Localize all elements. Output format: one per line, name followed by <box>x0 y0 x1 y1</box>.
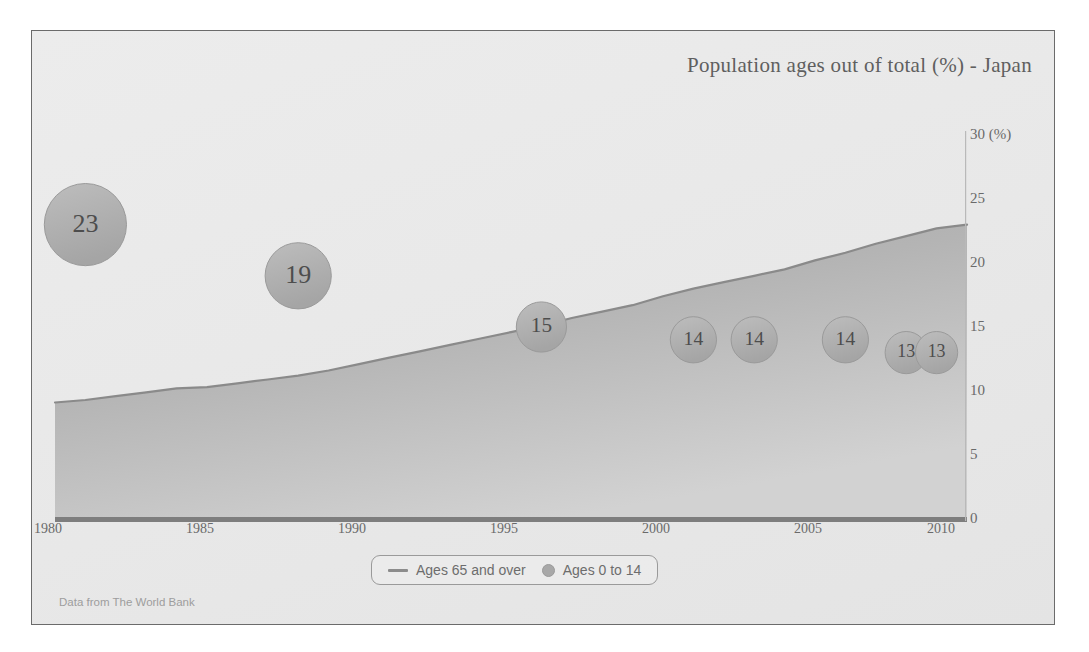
y-axis-line <box>965 131 966 521</box>
chart-panel: Population ages out of total (%) - Japan <box>31 30 1055 625</box>
x-axis-tick-label: 2000 <box>642 521 670 537</box>
bubble-ages-0-to-14 <box>670 317 716 363</box>
data-source-note: Data from The World Bank <box>59 596 195 608</box>
legend-label-ages-0-to-14: Ages 0 to 14 <box>563 562 642 578</box>
bubble-ages-0-to-14 <box>265 243 331 309</box>
x-axis-tick-label: 1990 <box>338 521 366 537</box>
area-fill <box>55 225 967 519</box>
x-axis-tick-label: 1985 <box>186 521 214 537</box>
y-axis-tick-label: 15 <box>970 318 985 335</box>
x-axis-tick-label: 1980 <box>34 521 62 537</box>
x-axis-tick-label: 2010 <box>927 521 955 537</box>
chart-legend[interactable]: Ages 65 and over Ages 0 to 14 <box>371 555 658 585</box>
x-axis-tick-label: 2005 <box>794 521 822 537</box>
bubble-ages-0-to-14 <box>44 184 126 266</box>
bubble-ages-0-to-14 <box>916 332 958 374</box>
bubble-ages-0-to-14 <box>822 317 868 363</box>
legend-item-ages-65-and-over[interactable]: Ages 65 and over <box>388 562 526 578</box>
dot-marker-icon <box>542 564 555 577</box>
legend-label-ages-65-and-over: Ages 65 and over <box>416 562 526 578</box>
y-axis-tick-label: 10 <box>970 382 985 399</box>
bubble-ages-0-to-14 <box>731 317 777 363</box>
y-axis-tick-label: 25 <box>970 190 985 207</box>
screenshot-root: Population ages out of total (%) - Japan <box>0 0 1089 652</box>
line-marker-icon <box>388 569 408 572</box>
y-axis-tick-label: 20 <box>970 254 985 271</box>
y-axis-tick-label: 30 (%) <box>970 126 1011 143</box>
bubble-ages-0-to-14 <box>516 302 566 352</box>
y-axis-tick-label: 0 <box>970 510 978 527</box>
y-axis-tick-label: 5 <box>970 446 978 463</box>
legend-item-ages-0-to-14[interactable]: Ages 0 to 14 <box>542 562 642 578</box>
x-axis-tick-label: 1995 <box>490 521 518 537</box>
